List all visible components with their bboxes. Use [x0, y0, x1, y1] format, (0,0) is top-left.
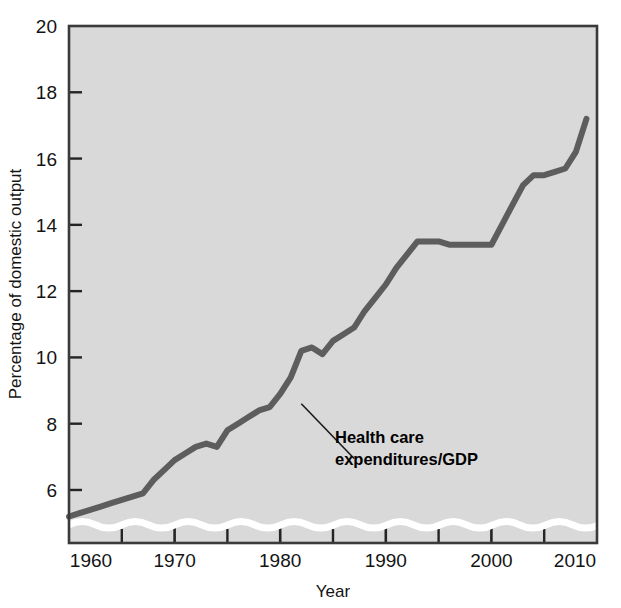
- y-axis-tick-label: 6: [46, 480, 57, 501]
- y-axis-tick-label: 20: [36, 16, 57, 37]
- y-axis-title: Percentage of domestic output: [6, 168, 25, 399]
- y-axis-tick-label: 18: [36, 82, 57, 103]
- x-axis-tick-label: 1990: [365, 550, 407, 571]
- chart-figure: 68101214161820 196019701980199020002010 …: [0, 0, 621, 608]
- axis-break-wave: [69, 522, 599, 529]
- y-axis-tick-label: 14: [36, 215, 58, 236]
- x-axis-tick-label: 1970: [153, 550, 195, 571]
- y-axis-tick-label: 10: [36, 347, 57, 368]
- x-axis-tick-label: 2000: [470, 550, 512, 571]
- chart-canvas: 68101214161820 196019701980199020002010 …: [0, 0, 621, 608]
- x-axis-title: Year: [316, 582, 351, 601]
- x-axis-tick-label: 2010: [554, 550, 596, 571]
- plot-area-background: [69, 26, 597, 543]
- series-annotation-line-1: Health care: [335, 428, 424, 446]
- y-axis-tick-label: 16: [36, 149, 57, 170]
- y-axis-tick-label: 8: [46, 414, 57, 435]
- x-axis-tick-label: 1980: [259, 550, 301, 571]
- y-axis-tick-label: 12: [36, 281, 57, 302]
- x-axis-tick-label: 1960: [70, 550, 112, 571]
- series-annotation-line-2: expenditures/GDP: [335, 450, 478, 468]
